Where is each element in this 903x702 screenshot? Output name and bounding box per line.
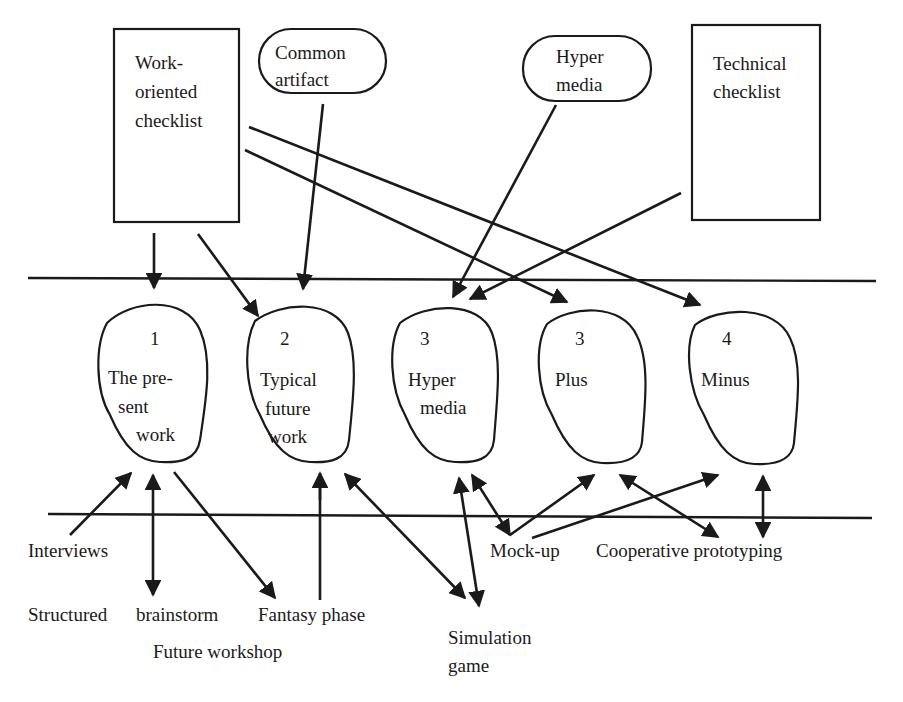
arrow-hypermedia-to-blob	[453, 105, 556, 297]
label-simulation: Simulation	[448, 627, 532, 648]
process-diagram: Work- oriented checklist Common artifact…	[0, 0, 903, 702]
common-artifact-line-1: Common	[275, 42, 346, 63]
technical-checklist-box: Technical checklist	[692, 25, 820, 220]
work-checklist-line-2: oriented	[135, 81, 198, 102]
lower-divider-line	[48, 514, 872, 518]
arrow-checklist-to-future	[198, 234, 258, 316]
blob-typical-future-work: 2 Typical future work	[247, 307, 354, 463]
arrow-mockup-to-plus	[510, 475, 594, 535]
arrow-interviews-to-present	[70, 473, 131, 535]
blob-plus: 3 Plus	[539, 310, 646, 463]
blob-minus: 4 Minus	[689, 312, 798, 464]
arrow-simulation-hypermedia	[459, 478, 479, 606]
source-arrows	[154, 104, 700, 316]
arrow-coop-plus	[620, 475, 718, 537]
blob-5-number: 4	[722, 328, 732, 349]
blob-2-line-3: work	[268, 426, 308, 447]
label-game: game	[448, 655, 489, 676]
blob-5-line-1: Minus	[701, 369, 750, 390]
work-checklist-line-3: checklist	[135, 110, 203, 131]
label-cooperative-prototyping: Cooperative prototyping	[596, 540, 783, 561]
work-checklist-line-1: Work-	[135, 52, 183, 73]
common-artifact-line-2: artifact	[275, 69, 330, 90]
technique-labels: Interviews Structured brainstorm Fantasy…	[28, 540, 783, 676]
label-fantasy-phase: Fantasy phase	[258, 604, 365, 625]
hyper-media-pill: Hyper media	[523, 36, 651, 101]
label-mock-up: Mock-up	[490, 540, 560, 561]
blob-hyper-media: 3 Hyper media	[392, 308, 498, 462]
arrow-simulation-future	[345, 474, 465, 598]
hyper-media-pill-line-1: Hyper	[556, 46, 604, 67]
work-oriented-checklist-box: Work- oriented checklist	[114, 29, 239, 222]
blob-4-line-1: Plus	[555, 369, 588, 390]
arrow-mockup-hypermedia	[472, 475, 510, 535]
blob-present-work: 1 The pre- sent work	[98, 305, 207, 462]
blob-3-line-2: media	[420, 397, 467, 418]
blob-4-number: 3	[575, 328, 585, 349]
blob-1-line-1: The pre-	[108, 367, 173, 388]
label-structured: Structured	[28, 604, 108, 625]
arrow-mockup-to-minus	[532, 475, 718, 538]
arrow-present-to-fantasy	[174, 472, 275, 598]
blob-3-number: 3	[420, 328, 430, 349]
blob-2-line-1: Typical	[260, 369, 317, 390]
common-artifact-pill: Common artifact	[259, 29, 386, 93]
label-interviews: Interviews	[28, 540, 108, 561]
technical-checklist-line-2: checklist	[713, 81, 781, 102]
blob-3-line-1: Hyper	[408, 369, 456, 390]
label-brainstorm: brainstorm	[136, 604, 219, 625]
label-future-workshop: Future workshop	[153, 641, 282, 662]
blob-2-line-2: future	[265, 398, 310, 419]
technique-arrows	[70, 472, 763, 606]
technical-checklist-line-1: Technical	[713, 53, 787, 74]
arrow-artifact-to-future	[303, 104, 323, 289]
blob-1-number: 1	[150, 328, 160, 349]
blob-1-line-2: sent	[118, 396, 149, 417]
blob-1-line-3: work	[136, 424, 176, 445]
hyper-media-pill-line-2: media	[556, 74, 603, 95]
blob-2-number: 2	[280, 328, 290, 349]
